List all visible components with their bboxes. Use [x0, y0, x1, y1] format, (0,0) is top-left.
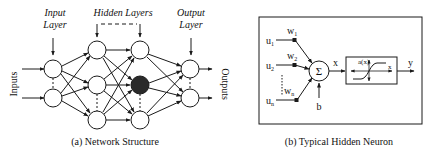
- sum-output-x: x: [333, 57, 338, 68]
- output-node-2: [181, 89, 199, 107]
- sigma-symbol: Σ: [316, 65, 322, 77]
- hidden2-node-3: [131, 111, 149, 129]
- output-node-1: [181, 60, 199, 78]
- bias-label: b: [317, 101, 322, 112]
- w2-to-sum: [295, 65, 309, 69]
- connections-hidden1-to-hidden2: [103, 50, 134, 120]
- weight-w2: w2: [287, 50, 297, 62]
- output-layer-label-line1: Output: [177, 7, 205, 18]
- output-y-label: y: [408, 57, 413, 68]
- hidden1-node-2: [88, 76, 106, 94]
- w1-to-sum: [295, 40, 312, 63]
- input-u2: u2: [266, 60, 274, 72]
- input-node-1: [44, 60, 62, 78]
- hidden-neuron-diagram: u1 w1 u2 w2 un wn Σ b x a(x) x: [259, 17, 422, 148]
- caption-a: (a) Network Structure: [71, 136, 159, 148]
- weight-wn: wn: [284, 85, 294, 97]
- inputs-label: Inputs: [8, 71, 19, 96]
- hidden1-node-1: [88, 41, 106, 59]
- weight-w1: w1: [287, 25, 297, 37]
- input-node-2: [44, 89, 62, 107]
- network-structure-diagram: Input Layer Hidden Layers Output Layer I…: [8, 7, 231, 148]
- input-u1: u1: [266, 35, 274, 47]
- output-layer-label-line2: Layer: [178, 19, 202, 30]
- activation-label: a(x): [358, 58, 370, 66]
- outputs-label: Outputs: [220, 68, 231, 100]
- hidden2-node-2-highlighted: [131, 76, 149, 94]
- connections-input-to-hidden1: [61, 53, 90, 116]
- connections-hidden2-to-output: [147, 54, 183, 116]
- input-un: un: [266, 95, 274, 107]
- input-layer-label-line2: Layer: [42, 19, 66, 30]
- wn-to-sum: [297, 78, 312, 100]
- hidden2-node-1: [131, 41, 149, 59]
- hidden1-node-3: [88, 111, 106, 129]
- input-layer-label-line1: Input: [43, 7, 65, 18]
- figure: Input Layer Hidden Layers Output Layer I…: [0, 0, 430, 153]
- hidden-layers-label: Hidden Layers: [92, 7, 152, 18]
- activation-axis-x-label: x: [388, 63, 392, 71]
- caption-b: (b) Typical Hidden Neuron: [285, 136, 393, 148]
